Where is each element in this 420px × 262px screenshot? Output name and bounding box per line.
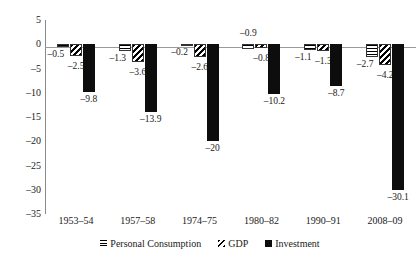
y-axis-tick: –25 [1, 161, 41, 171]
bar-value-label: –13.9 [131, 114, 171, 124]
bar-group: –0.9–0.8–10.2 [231, 20, 293, 214]
bar-value-label: –30.1 [378, 192, 418, 202]
y-axis-tick: 5 [1, 15, 41, 25]
bar-chart: 50–5–10–15–20–25–30–35 –0.5–2.5–9.8–1.3–… [0, 0, 420, 262]
bar-group: –0.2–2.6–20 [169, 20, 231, 214]
x-axis-tick: 1990–91 [306, 215, 341, 226]
bar-group: –2.7–4.2–30.1 [354, 20, 416, 214]
y-axis-tick: –10 [1, 88, 41, 98]
bar-group: –1.1–1.3–8.7 [292, 20, 354, 214]
bar-inv: –13.9 [145, 44, 157, 111]
bar-value-label: –9.8 [69, 94, 109, 104]
plot-area: –0.5–2.5–9.8–1.3–3.6–13.9–0.2–2.6–20–0.9… [45, 20, 416, 214]
bar-inv: –8.7 [330, 44, 342, 86]
bar-inv: –10.2 [268, 44, 280, 93]
y-axis-tick-labels: 50–5–10–15–20–25–30–35 [0, 0, 41, 262]
bar-value-label: –10.2 [254, 96, 294, 106]
bar-value-label: –20 [193, 143, 233, 153]
x-axis-tick: 1957–58 [120, 215, 155, 226]
legend-label: GDP [228, 238, 248, 249]
bar-gdp: –2.5 [70, 44, 82, 56]
legend-item[interactable]: GDP [218, 238, 248, 249]
bar-inv: –20 [207, 44, 219, 141]
bar-gdp: –1.3 [317, 44, 329, 50]
x-axis-tick: 2008–09 [368, 215, 403, 226]
y-axis-tick: –5 [1, 64, 41, 74]
y-axis-tick: –20 [1, 136, 41, 146]
bar-pc: –0.2 [181, 44, 193, 46]
bar-pc: –0.9 [242, 44, 254, 48]
legend-label: Investment [275, 238, 319, 249]
y-axis-tick: –15 [1, 112, 41, 122]
bar-gdp: –0.8 [255, 44, 267, 48]
x-axis-tick-labels: 1953–541957–581974–751980–821990–912008–… [45, 215, 416, 231]
bar-pc: –0.5 [57, 44, 69, 46]
y-axis-tick: –30 [1, 185, 41, 195]
bar-value-label: –8.7 [316, 88, 356, 98]
bar-pc: –1.1 [304, 44, 316, 49]
x-axis-tick: 1953–54 [58, 215, 93, 226]
y-axis-tick: –35 [1, 209, 41, 219]
horizontal-stripes-swatch [100, 240, 107, 247]
bar-gdp: –3.6 [132, 44, 144, 61]
bar-inv: –30.1 [392, 44, 404, 190]
bar-gdp: –2.6 [194, 44, 206, 57]
bar-gdp: –4.2 [379, 44, 391, 64]
bar-pc: –1.3 [119, 44, 131, 50]
bar-pc: –2.7 [366, 44, 378, 57]
x-axis-tick: 1974–75 [182, 215, 217, 226]
legend-item[interactable]: Personal Consumption [100, 238, 201, 249]
solid-black-swatch [265, 240, 272, 247]
x-axis-tick: 1980–82 [244, 215, 279, 226]
bar-group: –0.5–2.5–9.8 [45, 20, 107, 214]
legend-label: Personal Consumption [110, 238, 201, 249]
bar-inv: –9.8 [83, 44, 95, 92]
legend-item[interactable]: Investment [265, 238, 319, 249]
diagonal-stripes-swatch [218, 240, 225, 247]
bar-value-label: –0.9 [228, 28, 268, 38]
chart-legend: Personal ConsumptionGDPInvestment [0, 238, 420, 249]
